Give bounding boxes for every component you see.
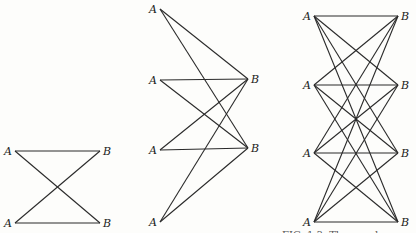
node-label-b: B <box>102 217 111 230</box>
node-label-b: B <box>102 145 111 158</box>
node-labels: AABBAAAABBAAAABBBB <box>3 3 409 230</box>
edge-g1-a3-b0 <box>160 79 248 222</box>
node-label-a: A <box>3 145 12 158</box>
node-label-b: B <box>400 147 409 160</box>
edges <box>15 9 398 223</box>
node-label-a: A <box>148 3 157 16</box>
node-label-a: A <box>148 74 157 87</box>
node-label-a: A <box>302 216 311 229</box>
node-label-a: A <box>302 147 311 160</box>
node-label-b: B <box>250 142 259 155</box>
bipartite-graphs-figure: AABBAAAABBAAAABBBB FIG. 1.3. The graphs <box>0 0 416 233</box>
node-label-b: B <box>400 79 409 92</box>
edge-g1-a1-b0 <box>160 79 248 80</box>
edge-g1-a0-b1 <box>160 9 248 148</box>
node-label-b: B <box>400 10 409 23</box>
node-label-a: A <box>3 217 12 230</box>
node-label-b: B <box>400 216 409 229</box>
node-label-a: A <box>302 79 311 92</box>
node-label-a: A <box>148 144 157 157</box>
edge-g1-a3-b1 <box>160 148 248 222</box>
node-label-b: B <box>250 73 259 86</box>
node-label-a: A <box>148 216 157 229</box>
edge-g1-a0-b0 <box>160 9 248 79</box>
node-label-a: A <box>302 10 311 23</box>
figure-caption: FIG. 1.3. The graphs <box>282 229 386 233</box>
